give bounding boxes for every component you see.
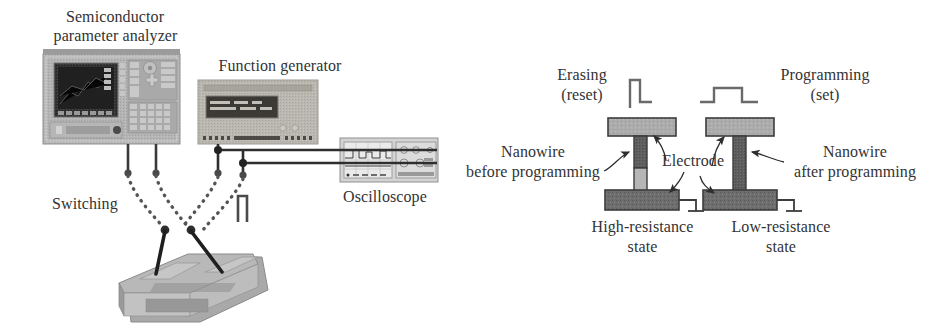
programming-label-line1: Programming <box>760 66 890 83</box>
left-nanowire-upper <box>634 136 647 168</box>
right-bottom-electrode <box>703 190 777 210</box>
low-resistance-label-line2: state <box>712 238 850 255</box>
right-ground-symbol <box>777 200 802 211</box>
left-nanowire-lower <box>634 168 647 192</box>
low-resistance-label-line1: Low-resistance <box>712 218 850 235</box>
electrode-label: Electrode <box>648 152 738 169</box>
switching-dotted-wires <box>128 176 243 230</box>
programming-label-line2: (set) <box>760 86 890 103</box>
right-top-electrode <box>706 118 774 136</box>
programming-pulse-waveform <box>700 88 758 102</box>
leader-electrode-left-bottom <box>670 172 684 192</box>
erasing-pulse-waveform <box>630 80 652 108</box>
high-resistance-label-line2: state <box>570 238 715 255</box>
nanowire-before-label-line2: before programming <box>458 163 608 180</box>
left-bottom-electrode <box>605 190 679 210</box>
nanowire-before-label-line1: Nanowire <box>468 143 598 160</box>
left-top-electrode <box>608 118 676 136</box>
nanowire-after-label-line2: after programming <box>780 163 930 180</box>
pulse-symbol-left <box>238 196 247 222</box>
erasing-label-line2: (reset) <box>536 86 628 103</box>
leader-nanowire-after <box>752 152 784 162</box>
nanowire-after-label-line1: Nanowire <box>790 143 920 160</box>
wire-node <box>214 146 222 154</box>
analyzer-wires <box>128 144 156 172</box>
nanowire-device-stage <box>119 254 268 322</box>
function-generator-image <box>198 80 318 144</box>
semiconductor-parameter-analyzer-image <box>43 49 180 144</box>
left-ground-symbol <box>679 200 704 211</box>
figure-root: Semiconductor parameter analyzer Functio… <box>0 0 931 331</box>
erasing-label-line1: Erasing <box>536 66 628 83</box>
wire-node <box>239 159 247 167</box>
oscilloscope-image <box>340 138 438 182</box>
high-resistance-label-line1: High-resistance <box>570 218 715 235</box>
